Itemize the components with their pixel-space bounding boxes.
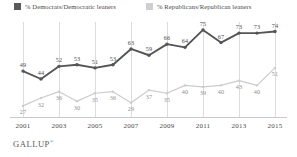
data-point — [39, 77, 42, 80]
data-label: 73 — [254, 24, 260, 30]
data-label: 29 — [128, 106, 134, 112]
gallup-logo: GALLUP® — [13, 139, 54, 149]
data-label: 51 — [92, 59, 98, 65]
data-label: 37 — [146, 94, 152, 100]
data-label: 30 — [74, 105, 80, 111]
data-point — [256, 84, 258, 86]
series-lines — [14, 22, 284, 117]
data-point — [94, 92, 96, 94]
data-label: 53 — [74, 56, 80, 62]
data-point — [40, 97, 42, 99]
data-label: 40 — [182, 89, 188, 95]
x-tick-2009: 2009 — [160, 122, 175, 130]
data-point — [220, 84, 222, 86]
x-tick-2013: 2013 — [232, 122, 247, 130]
x-tick-2007: 2007 — [124, 122, 139, 130]
data-label: 39 — [200, 90, 206, 96]
data-label: 35 — [92, 97, 98, 103]
data-point — [112, 90, 114, 92]
data-point — [219, 41, 222, 44]
legend-item-democrats: % Democrats/Democratic leaners — [14, 3, 116, 10]
legend-label-republicans: % Republicans/Republican leaners — [157, 3, 251, 10]
data-point — [201, 28, 204, 31]
data-point — [184, 84, 186, 86]
data-point — [274, 67, 276, 69]
data-point — [75, 63, 78, 66]
data-label: 59 — [146, 46, 152, 52]
data-point — [22, 105, 24, 107]
data-point — [93, 66, 96, 69]
data-label: 53 — [110, 56, 116, 62]
data-label: 35 — [164, 97, 170, 103]
data-label: 73 — [236, 24, 242, 30]
data-label: 66 — [164, 35, 170, 41]
x-axis-ticks: 20012003200520072009201120132015 — [14, 122, 284, 134]
data-point — [58, 90, 60, 92]
data-label: 75 — [200, 21, 206, 27]
data-label: 52 — [56, 57, 62, 63]
data-point — [111, 63, 114, 66]
data-label: 32 — [38, 102, 44, 108]
plot-area: 4944525351536359666475677373742732363035… — [14, 22, 284, 117]
gallup-line-chart: % Democrats/Democratic leaners % Republi… — [0, 0, 297, 157]
data-label: 27 — [20, 109, 26, 115]
data-point — [57, 65, 60, 68]
data-point — [76, 100, 78, 102]
data-point — [255, 31, 258, 34]
legend-item-republicans: % Republicans/Republican leaners — [146, 3, 251, 10]
data-label: 64 — [182, 38, 188, 44]
data-point — [147, 54, 150, 57]
data-label: 63 — [128, 40, 134, 46]
legend-swatch-democrats — [14, 3, 21, 10]
data-point — [165, 42, 168, 45]
data-point — [129, 47, 132, 50]
data-label: 36 — [110, 95, 116, 101]
chart-legend: % Democrats/Democratic leaners % Republi… — [0, 3, 297, 19]
legend-label-democrats: % Democrats/Democratic leaners — [25, 3, 116, 10]
data-point — [238, 79, 240, 81]
x-tick-2011: 2011 — [196, 122, 211, 130]
data-label: 44 — [38, 70, 44, 76]
x-axis-line — [10, 117, 287, 118]
x-tick-2001: 2001 — [16, 122, 31, 130]
data-point — [237, 31, 240, 34]
data-label: 51 — [272, 71, 278, 77]
data-point — [21, 69, 24, 72]
data-label: 43 — [236, 84, 242, 90]
x-tick-2015: 2015 — [268, 122, 283, 130]
data-point — [202, 86, 204, 88]
data-point — [148, 89, 150, 91]
data-label: 40 — [254, 89, 260, 95]
x-tick-2003: 2003 — [52, 122, 67, 130]
x-tick-2005: 2005 — [88, 122, 103, 130]
data-point — [183, 46, 186, 49]
data-label: 40 — [218, 89, 224, 95]
legend-swatch-republicans — [146, 3, 153, 10]
data-point — [166, 92, 168, 94]
data-point — [130, 102, 132, 104]
data-label: 36 — [56, 95, 62, 101]
data-label: 49 — [20, 62, 26, 68]
data-label: 67 — [218, 34, 224, 40]
data-label: 74 — [272, 23, 278, 29]
data-point — [273, 30, 276, 33]
